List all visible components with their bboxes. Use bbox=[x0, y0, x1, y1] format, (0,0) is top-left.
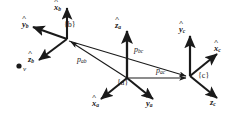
coordinate-frames-diagram: xb yb zb {b} za xa ya {a} yc xc zc {c} p… bbox=[0, 0, 235, 118]
y-hat-b-subscript: b bbox=[26, 23, 29, 29]
z-hat-b-subscript: b bbox=[31, 58, 34, 64]
y-hat-b-axis bbox=[33, 27, 67, 39]
z-hat-a-label: za bbox=[115, 21, 121, 31]
x-hat-c-label: xc bbox=[214, 44, 221, 54]
z-hat-b-axis bbox=[39, 39, 67, 60]
z-hat-a-subscript: a bbox=[118, 24, 121, 30]
y-hat-a-subscript: a bbox=[150, 102, 153, 108]
z-hat-c-symbol: z bbox=[210, 98, 213, 107]
frame-a-label: {a} bbox=[117, 79, 128, 87]
y-hat-c-subscript: c bbox=[183, 28, 185, 34]
x-hat-c-symbol: x bbox=[214, 44, 218, 53]
z-hat-b-label: zb bbox=[28, 55, 34, 65]
x-hat-b-subscript: b bbox=[58, 6, 61, 12]
z-hat-a-symbol: z bbox=[115, 21, 118, 30]
z-hat-c-label: zc bbox=[210, 98, 216, 108]
x-hat-b-symbol: x bbox=[54, 3, 58, 12]
frame-b-axes bbox=[33, 8, 67, 60]
y-hat-a-label: ya bbox=[146, 99, 153, 109]
frame-b-label: {b} bbox=[64, 21, 76, 29]
frame-a-axes bbox=[101, 31, 153, 99]
frame-c-label: {c} bbox=[198, 72, 209, 80]
y-hat-a-symbol: y bbox=[146, 99, 150, 108]
y-hat-b-label: yb bbox=[22, 20, 29, 30]
vector-p-bc-label: pbc bbox=[134, 46, 143, 55]
y-hat-c-symbol: y bbox=[179, 25, 183, 34]
point-v-marker bbox=[16, 63, 21, 68]
z-hat-b-symbol: z bbox=[28, 55, 31, 64]
x-hat-a-symbol: x bbox=[92, 99, 96, 108]
y-hat-c-label: yc bbox=[179, 25, 185, 35]
x-hat-a-subscript: a bbox=[96, 102, 99, 108]
p-ac-subscript: ac bbox=[160, 69, 165, 75]
x-hat-a-label: xa bbox=[92, 99, 99, 109]
vector-p-ab-label: pab bbox=[77, 56, 87, 65]
x-hat-c-subscript: c bbox=[218, 47, 220, 53]
p-bc-subscript: bc bbox=[138, 48, 143, 54]
p-ab-subscript: ab bbox=[81, 58, 87, 64]
vector-p-ac-label: pac bbox=[156, 67, 165, 76]
z-hat-c-subscript: c bbox=[213, 101, 215, 107]
y-hat-b-symbol: y bbox=[22, 20, 26, 29]
x-hat-b-label: xb bbox=[54, 3, 61, 13]
point-v-label: v bbox=[23, 66, 26, 73]
